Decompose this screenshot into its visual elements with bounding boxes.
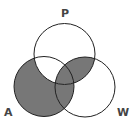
label-p: P (61, 7, 69, 20)
venn-diagram: P A W (0, 0, 134, 128)
label-w: W (117, 106, 129, 119)
label-a: A (4, 106, 13, 119)
